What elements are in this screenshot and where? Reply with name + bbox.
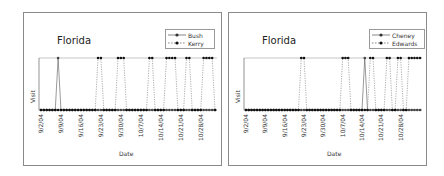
svg-text:9/2/04: 9/2/04 [37,114,44,133]
chart-legend: Bush Kerry [165,29,215,49]
legend-item-bush: Bush [168,31,212,39]
svg-text:10/21/04: 10/21/04 [177,114,184,141]
y-axis-label: Visit [29,90,36,103]
dashed-line-marker-icon [168,40,186,46]
chart-title: Florida [262,35,296,46]
svg-text:9/9/04: 9/9/04 [57,114,64,133]
legend-item-edwards: Edwards [372,39,422,47]
x-axis-label: Date [327,150,341,157]
y-axis-label: Visit [234,90,241,103]
svg-text:10/28/04: 10/28/04 [197,114,204,141]
svg-text:9/2/04: 9/2/04 [242,114,249,133]
svg-text:10/14/04: 10/14/04 [157,114,164,141]
chart-panel-bush-kerry: 9/2/049/9/049/16/049/23/049/30/0410/7/04… [23,12,222,166]
solid-line-marker-icon [168,32,186,38]
svg-text:10/7/04: 10/7/04 [339,114,346,137]
legend-item-cheney: Cheney [372,31,422,39]
svg-text:9/23/04: 9/23/04 [97,114,104,137]
svg-text:9/16/04: 9/16/04 [77,114,84,137]
chart-panel-cheney-edwards: 9/2/049/9/049/16/049/23/049/30/0410/7/04… [228,12,427,166]
svg-text:9/16/04: 9/16/04 [281,114,288,137]
svg-text:9/23/04: 9/23/04 [300,114,307,137]
dashed-line-marker-icon [372,40,390,46]
chart-legend: Cheney Edwards [369,29,425,49]
solid-line-marker-icon [372,32,390,38]
svg-text:10/28/04: 10/28/04 [397,114,404,141]
chart-title: Florida [57,35,91,46]
x-axis-label: Date [119,150,133,157]
svg-text:9/30/04: 9/30/04 [117,114,124,137]
svg-text:9/30/04: 9/30/04 [319,114,326,137]
svg-text:10/21/04: 10/21/04 [377,114,384,141]
legend-item-kerry: Kerry [168,39,212,47]
svg-text:10/14/04: 10/14/04 [358,114,365,141]
svg-text:10/7/04: 10/7/04 [137,114,144,137]
svg-text:9/9/04: 9/9/04 [261,114,268,133]
